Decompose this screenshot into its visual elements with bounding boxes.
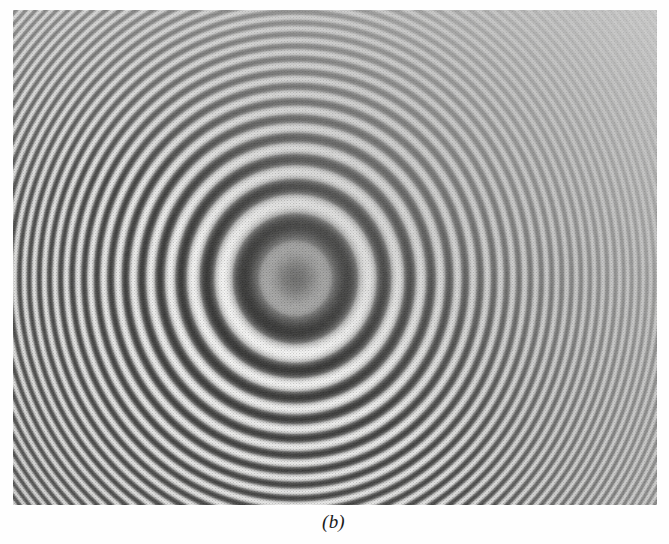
fringe-pattern-canvas: [13, 10, 657, 505]
figure-caption: (b): [0, 509, 669, 535]
interference-fringe-photograph: [13, 10, 657, 505]
figure-caption-label: (b): [322, 511, 345, 532]
figure-root: (b): [0, 0, 669, 544]
